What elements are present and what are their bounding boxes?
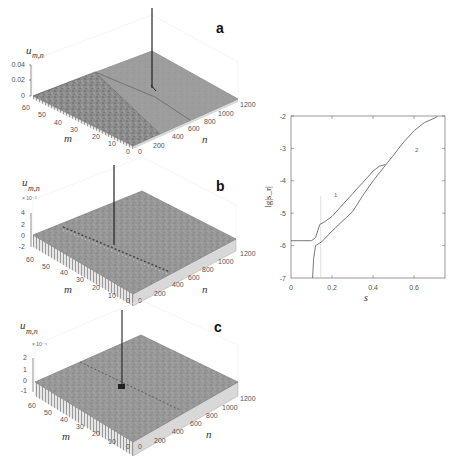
panel-letter: b: [216, 178, 225, 194]
m-tick: 20: [92, 133, 100, 140]
z-tick: 4: [21, 209, 25, 216]
panel-c: 2 1 0 -1 u m,n × 10⁻⁴ 60 50 40 30 20 10 …: [20, 300, 256, 456]
n-tick: 1200: [240, 250, 256, 257]
curve-label-2: 2: [415, 147, 419, 153]
m-tick: 30: [76, 423, 84, 430]
m-axis-label: m: [62, 430, 70, 442]
m-tick: 50: [44, 409, 52, 416]
n-tick: 400: [172, 428, 184, 435]
panel-letter: a: [216, 20, 224, 36]
z-tick: 0: [21, 232, 25, 239]
z-scale: × 10⁻³: [22, 195, 37, 201]
figure-canvas: 0.04 0.02 0 u m,n 60 50 40 30 20 10 0 m …: [0, 0, 458, 465]
y-tick: -3: [280, 145, 286, 152]
m-tick: 0: [126, 443, 130, 450]
n-tick: 600: [188, 274, 200, 281]
z-axis-label-sub: m,n: [28, 184, 40, 193]
m-tick: 40: [54, 119, 62, 126]
panel-a: 0.04 0.02 0 u m,n 60 50 40 30 20 10 0 m …: [11, 8, 255, 155]
m-tick: 10: [108, 140, 116, 147]
n-tick: 1000: [218, 258, 234, 265]
z-tick: 0: [21, 92, 25, 99]
line-plot: -2 -3 -4 -5 -6 -7 0 0.2 0.4 0.6 s lg|s_r…: [263, 113, 445, 303]
n-tick: 400: [172, 281, 184, 288]
m-tick: 0: [126, 297, 130, 304]
m-tick: 40: [60, 416, 68, 423]
m-tick: 10: [108, 438, 116, 445]
z-scale: × 10⁻⁴: [32, 341, 47, 347]
m-tick: 40: [60, 269, 68, 276]
n-tick: 1000: [218, 110, 234, 117]
n-axis-label: n: [206, 428, 212, 440]
z-tick: 2: [21, 221, 25, 228]
z-tick: 1: [23, 366, 27, 373]
n-tick: 0: [138, 443, 142, 450]
n-tick: 800: [204, 118, 216, 125]
y-tick: -5: [280, 210, 286, 217]
n-tick: 600: [188, 125, 200, 132]
m-tick: 60: [26, 256, 34, 263]
n-axis-label: n: [202, 283, 208, 295]
m-tick: 20: [92, 284, 100, 291]
n-axis-label: n: [202, 133, 208, 145]
m-axis-label: m: [64, 283, 72, 295]
z-tick: 2: [23, 354, 27, 361]
y-tick: -7: [280, 275, 286, 282]
y-tick: -6: [280, 242, 286, 249]
n-tick: 400: [172, 133, 184, 140]
n-tick: 0: [138, 148, 142, 155]
z-axis-label-sub: m,n: [32, 51, 44, 60]
x-tick: 0.2: [327, 284, 337, 291]
m-tick: 10: [108, 292, 116, 299]
curve-1: [291, 165, 385, 241]
n-tick: 1000: [222, 404, 238, 411]
y-tick: -2: [280, 113, 286, 120]
panel-b: 4 2 0 -2 u m,n × 10⁻³ 60 50 40 30 20 10 …: [19, 157, 256, 306]
y-axis-label: lg|s_r|: [263, 186, 273, 208]
z-tick: -1: [21, 387, 27, 394]
x-tick: 0.6: [409, 284, 419, 291]
m-tick: 50: [38, 111, 46, 118]
n-tick: 200: [154, 290, 166, 297]
y-tick: -4: [280, 177, 286, 184]
n-tick: 200: [154, 437, 166, 444]
n-tick: 600: [190, 420, 202, 427]
curve-2: [313, 117, 438, 279]
n-tick: 1200: [240, 395, 256, 402]
n-tick: 200: [153, 142, 165, 149]
x-tick: 0: [289, 284, 293, 291]
x-axis-label: s: [364, 292, 368, 303]
m-tick: 20: [92, 430, 100, 437]
z-tick: 0.04: [11, 61, 25, 68]
z-axis-label-sub: m,n: [26, 327, 38, 336]
z-tick: 0.02: [11, 76, 25, 83]
m-tick: 0: [126, 148, 130, 155]
m-tick: 60: [28, 402, 36, 409]
x-tick: 0.4: [368, 284, 378, 291]
m-axis-label: m: [64, 132, 72, 144]
n-tick: 800: [206, 412, 218, 419]
curve-label-1: 1: [334, 192, 338, 198]
z-tick: -2: [19, 243, 25, 250]
n-tick: 800: [202, 266, 214, 273]
panel-letter: c: [214, 319, 222, 335]
m-tick: 50: [42, 263, 50, 270]
z-tick: 0: [23, 377, 27, 384]
m-tick: 60: [22, 104, 30, 111]
m-tick: 30: [76, 276, 84, 283]
n-tick: 1200: [240, 101, 256, 108]
